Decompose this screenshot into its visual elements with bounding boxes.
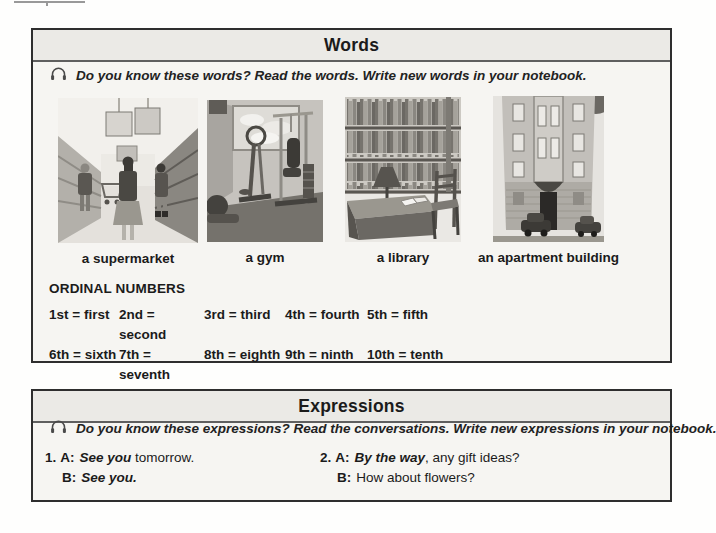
supermarket-figure: a supermarket [58,98,198,243]
line-text: tomorrow. [131,450,194,465]
ordinal-row-1: 1st = first 2nd = second 3rd = third 4th… [49,305,443,345]
expressions-instruction: Do you know these expressions? Read the … [50,419,716,437]
expressions-section: Expressions Do you know these expression… [31,389,672,502]
dialogue-2-line-b: B:How about flowers? [320,468,520,488]
headphones-icon [50,66,67,84]
gym-caption: a gym [245,250,284,265]
dialogue-1-line-b: B:See you. [45,468,194,488]
page-crop-line [14,1,85,3]
speaker-a-label: A: [60,450,74,465]
words-instruction: Do you know these words? Read the words.… [50,66,587,84]
expression-highlight: See you. [81,470,137,485]
speaker-b-label: B: [337,470,351,485]
expression-highlight: By the way [355,450,426,465]
expressions-instruction-text: Do you know these expressions? Read the … [76,421,716,436]
dialogue-1-line-a: 1.A:See you tomorrow. [45,448,194,468]
apartment-building-caption: an apartment building [478,250,619,265]
supermarket-image [58,98,198,243]
ordinal-row-2: 6th = sixth 7th = seventh 8th = eighth 9… [49,345,443,385]
dialogue-2: 2.A:By the way, any gift ideas? B:How ab… [320,448,520,487]
supermarket-caption: a supermarket [82,251,174,266]
dialogue-number: 1. [45,450,56,465]
ordinal-item: 6th = sixth [49,345,119,385]
headphones-icon [50,419,67,437]
speaker-a-label: A: [335,450,349,465]
ordinal-item: 9th = ninth [285,345,367,385]
apartment-building-figure: an apartment building [493,96,604,242]
apartment-building-image [493,96,604,242]
ordinal-item: 1st = first [49,305,119,345]
ordinal-item: 4th = fourth [285,305,367,345]
ordinal-item: 2nd = second [119,305,204,345]
ordinal-item: 5th = fifth [367,305,428,345]
line-text: How about flowers? [356,470,475,485]
gym-figure: a gym [207,100,323,242]
words-title: Words [33,30,670,62]
library-image [345,97,461,242]
library-figure: a library [345,97,461,242]
dialogue-2-line-a: 2.A:By the way, any gift ideas? [320,448,520,468]
gym-image [207,100,323,242]
ordinal-item: 8th = eighth [204,345,285,385]
dialogue-number: 2. [320,450,331,465]
words-instruction-text: Do you know these words? Read the words.… [76,68,587,83]
ordinal-item: 3rd = third [204,305,285,345]
ordinal-item: 7th = seventh [119,345,204,385]
line-text: , any gift ideas? [425,450,520,465]
dialogue-1: 1.A:See you tomorrow. B:See you. [45,448,194,487]
page-crop-tick [46,3,48,6]
ordinal-item: 10th = tenth [367,345,443,385]
speaker-b-label: B: [62,470,76,485]
ordinal-numbers-heading: ORDINAL NUMBERS [49,281,443,296]
words-section: Words Do you know these words? Read the … [31,28,672,363]
library-caption: a library [377,250,430,265]
ordinal-numbers-block: ORDINAL NUMBERS 1st = first 2nd = second… [49,281,443,385]
expression-highlight: See you [80,450,132,465]
